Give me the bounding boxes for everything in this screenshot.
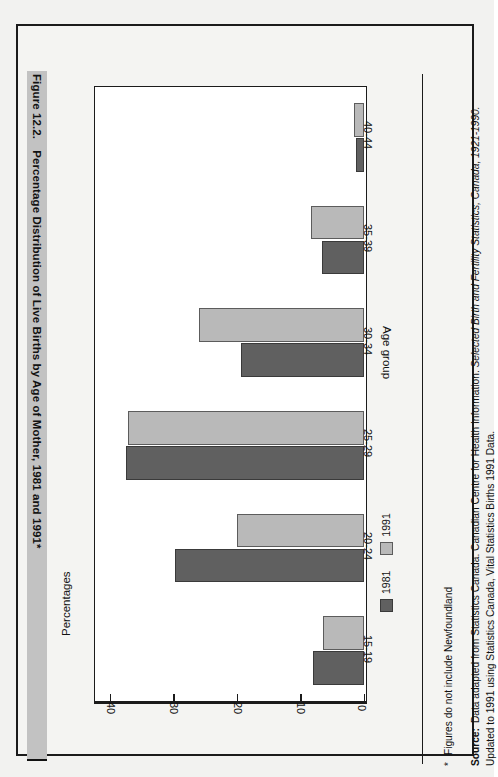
bar-1991-30-34: [199, 308, 364, 342]
bar-1981-25-29: [126, 446, 364, 480]
value-tick-label-10: 10: [296, 702, 308, 714]
x-axis-title: Age group: [381, 326, 393, 379]
footnote: * Figures do not include Newfoundland: [442, 76, 457, 766]
figure-title-bar: Figure 12.2.Percentage Distribution of L…: [27, 71, 47, 761]
value-tick-10: [300, 694, 301, 702]
figure-title-text: Percentage Distribution of Live Births b…: [31, 150, 43, 548]
legend-swatch-1991: [380, 542, 393, 555]
bar-1991-35-39: [311, 206, 364, 240]
category-label-15-19: 15-19: [362, 635, 374, 663]
value-tick-label-40: 40: [105, 702, 117, 714]
legend-label-1981: 1981: [380, 571, 392, 594]
bar-1981-30-34: [241, 343, 364, 377]
source-text-1: Data adapted from Statistics Canada. Can…: [470, 367, 481, 723]
source-text-2: Updated to 1991 using Statistics Canada,…: [485, 431, 496, 766]
category-label-30-34: 30-34: [362, 327, 374, 355]
bar-1981-15-19: [313, 651, 364, 685]
value-axis-line: [94, 702, 367, 704]
figure-frame: Figure 12.2.Percentage Distribution of L…: [16, 24, 474, 756]
bar-1981-20-24: [175, 549, 364, 583]
legend-label-1991: 1991: [380, 513, 392, 536]
footnote-marker: *: [442, 762, 457, 766]
bar-1981-35-39: [322, 241, 364, 275]
value-axis: 010203040: [94, 702, 367, 703]
value-tick-20: [237, 694, 238, 702]
figure-title: Figure 12.2.Percentage Distribution of L…: [31, 71, 43, 549]
figure-notes: * Figures do not include Newfoundland So…: [442, 76, 498, 766]
bar-1991-20-24: [237, 514, 364, 548]
source-note: Source:Data adapted from Statistics Cana…: [469, 76, 498, 766]
category-label-20-24: 20-24: [362, 532, 374, 560]
category-label-40-44: 40-44: [362, 121, 374, 149]
value-tick-40: [110, 694, 111, 702]
source-italic: Selected Birth and Fertility Statistics,…: [470, 106, 481, 367]
bar-1991-25-29: [128, 411, 364, 445]
chart-plot-area: [94, 86, 367, 702]
category-label-25-29: 25-29: [362, 429, 374, 457]
value-tick-0: [364, 694, 365, 702]
figure-number: Figure 12.2.: [31, 74, 43, 139]
plot-background: [94, 86, 367, 702]
legend-item-1991: 1991: [380, 513, 393, 554]
value-tick-30: [173, 694, 174, 702]
y-axis-title: Percentages: [60, 571, 72, 636]
value-tick-label-30: 30: [168, 702, 180, 714]
footnote-text: Figures do not include Newfoundland: [442, 587, 457, 755]
legend-item-1981: 1981: [380, 571, 393, 612]
value-tick-label-0: 0: [356, 705, 368, 711]
category-label-35-39: 35-39: [362, 224, 374, 252]
notes-divider: [422, 74, 423, 764]
bar-1991-15-19: [323, 616, 364, 650]
value-tick-label-20: 20: [232, 702, 244, 714]
source-label: Source:: [470, 728, 481, 766]
legend-swatch-1981: [380, 599, 393, 612]
chart-legend: 1981 1991: [375, 462, 397, 612]
